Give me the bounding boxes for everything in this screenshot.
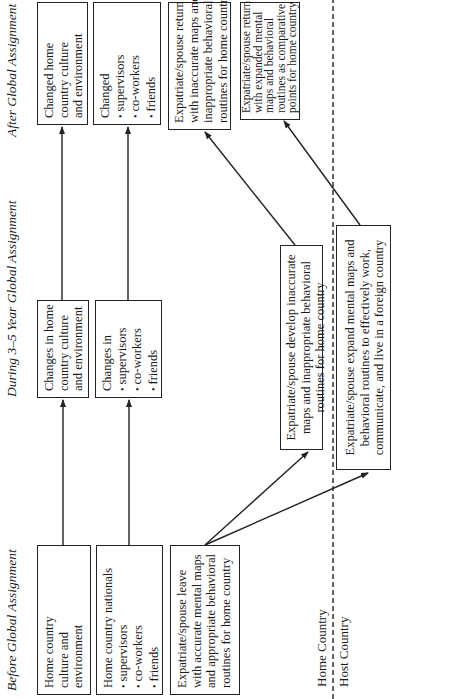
bullet-item: supervisors <box>113 9 129 118</box>
box-line: Expatriate/spouse return <box>172 9 187 123</box>
bullet-list: supervisors co-workers friends <box>113 9 160 118</box>
box-title: Changed <box>98 9 113 118</box>
during-develop-box: Expatriate/spouse develop inaccurate map… <box>280 245 323 450</box>
box-line: and appropriate behavioral <box>204 552 219 688</box>
box-title: Home country nationals <box>101 552 116 688</box>
host-country-label: Host Country <box>336 617 352 687</box>
box-line: Home country <box>42 552 57 688</box>
after-changed-box: Changed supervisors co-workers friends <box>93 2 161 125</box>
box-line: country culture <box>57 307 72 391</box>
during-culture-box: Changes in home country culture and envi… <box>37 300 89 398</box>
bullet-item: co-workers <box>128 9 144 118</box>
box-title: Changes in <box>100 307 115 391</box>
box-line: routines for home country <box>313 250 328 445</box>
box-line: inappropriate behavioral <box>201 9 216 123</box>
box-line: and environment <box>71 9 86 118</box>
box-line: Expatriate/spouse develop inaccurate <box>284 250 299 445</box>
after-culture-box: Changed home country culture and environ… <box>37 2 88 125</box>
during-expand-box: Expatriate/spouse expand mental maps and… <box>336 225 391 470</box>
box-line: behavioral routines to effectively work, <box>358 230 373 465</box>
box-line: environment <box>71 552 86 688</box>
bullet-item: co-workers <box>131 552 147 688</box>
after-return-expanded-box: Expatriate/spouse return with expanded m… <box>240 2 300 120</box>
box-line: Expatriate/spouse expand mental maps and <box>343 230 358 465</box>
bullet-item: friends <box>144 9 160 118</box>
box-line: communicate, and live in a foreign count… <box>372 230 387 465</box>
home-country-label: Home Country <box>314 609 330 687</box>
bullet-list: supervisors co-workers friends <box>116 552 163 688</box>
after-return-inaccurate-box: Expatriate/spouse return with inaccurate… <box>168 2 231 130</box>
during-changes-box: Changes in supervisors co-workers friend… <box>95 300 162 398</box>
box-line: routines for home country <box>216 9 231 123</box>
bullet-item: supervisors <box>116 552 132 688</box>
box-line: Expatriate/spouse return <box>241 9 253 113</box>
global-assignment-diagram: Before Global Assignment During 3–5 Year… <box>0 0 455 699</box>
before-culture-box: Home country culture and environment <box>37 545 91 695</box>
before-leave-box: Expatriate/spouse leave with accurate me… <box>170 545 240 695</box>
box-line: culture and <box>57 552 72 688</box>
box-line: with accurate mental maps <box>190 552 205 688</box>
before-nationals-box: Home country nationals supervisors co-wo… <box>96 545 163 695</box>
bullet-item: friends <box>147 552 163 688</box>
box-line: routines for home country <box>219 552 234 688</box>
column-header-before: Before Global Assignment <box>4 549 20 691</box>
box-line: and environment <box>71 307 86 391</box>
box-line: country culture <box>57 9 72 118</box>
bullet-list: supervisors co-workers friends <box>115 307 162 391</box>
bullet-item: supervisors <box>115 307 131 391</box>
box-line: points for home country <box>287 9 299 113</box>
box-line: maps and inappropriate behavioral <box>299 250 314 445</box>
column-header-during: During 3–5 Year Global Assignment <box>4 200 20 397</box>
bullet-item: co-workers <box>130 307 146 391</box>
column-header-after: After Global Assignment <box>4 4 20 137</box>
box-line: with inaccurate maps and <box>187 9 202 123</box>
box-line: Changes in home <box>42 307 57 391</box>
box-line: Expatriate/spouse leave <box>175 552 190 688</box>
bullet-item: friends <box>146 307 162 391</box>
box-line: Changed home <box>42 9 57 118</box>
